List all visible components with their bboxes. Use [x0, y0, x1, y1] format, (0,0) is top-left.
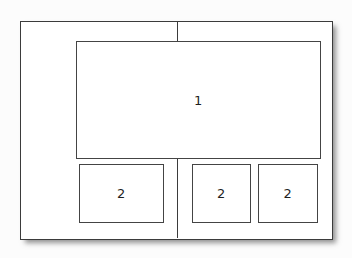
region-sub-middle[interactable]: 2	[192, 164, 251, 223]
region-main-label: 1	[194, 94, 203, 107]
diagram-canvas: 1 2 2 2	[0, 0, 352, 258]
region-sub-right-label: 2	[284, 187, 293, 200]
region-sub-middle-label: 2	[217, 187, 226, 200]
region-sub-left[interactable]: 2	[79, 164, 164, 223]
region-sub-left-label: 2	[117, 187, 126, 200]
region-main[interactable]: 1	[76, 41, 321, 159]
page-frame: 1 2 2 2	[20, 21, 333, 240]
region-sub-right[interactable]: 2	[258, 164, 318, 223]
